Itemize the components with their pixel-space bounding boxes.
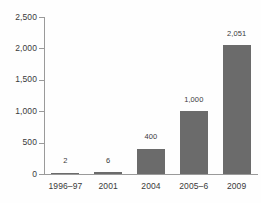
y-axis-tick-label: 500 [0,138,37,147]
bar-chart: 2,500 2,000 1,500 1,000 500 0 2 6 400 1,… [0,0,261,203]
x-axis-tick-label: 2005–6 [172,181,215,191]
bar-group: 2,051 [215,17,258,174]
bar[interactable] [180,111,208,174]
bar[interactable] [51,173,79,175]
bar-value-label: 2 [63,157,67,165]
y-axis-tick-label: 0 [0,170,37,179]
y-axis-tick-label: 1,000 [0,107,37,116]
bar-value-label: 2,051 [227,30,246,38]
y-axis-tick-label: 2,000 [0,44,37,53]
x-axis-tick-label: 1996–97 [44,181,87,191]
bar-group: 400 [130,17,173,174]
bar-value-label: 1,000 [184,96,203,104]
bars-layer: 2 6 400 1,000 2,051 [44,0,258,203]
x-axis-tick-label: 2004 [130,181,173,191]
y-axis-tick-label: 2,500 [0,13,37,22]
bar[interactable] [223,45,251,174]
bar-group: 6 [87,17,130,174]
y-axis-tick-label: 1,500 [0,75,37,84]
bar-value-label: 400 [145,133,158,141]
bar[interactable] [137,149,165,174]
bar-value-label: 6 [106,157,110,165]
x-axis-tick-label: 2009 [215,181,258,191]
bar-group: 1,000 [172,17,215,174]
bar[interactable] [94,172,122,174]
bar-group: 2 [44,17,87,174]
x-axis-tick-label: 2001 [87,181,130,191]
